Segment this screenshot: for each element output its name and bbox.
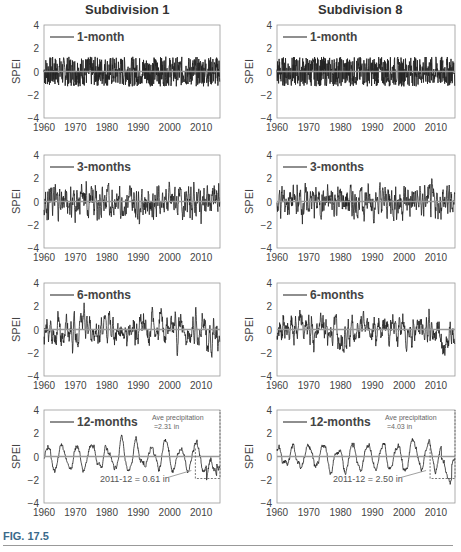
svg-text:1960: 1960	[266, 380, 289, 391]
svg-text:1980: 1980	[329, 252, 352, 263]
svg-text:4: 4	[33, 150, 39, 161]
svg-text:2: 2	[33, 428, 39, 439]
svg-text:SPEI: SPEI	[243, 59, 255, 84]
svg-text:2: 2	[266, 173, 272, 184]
svg-text:−2: −2	[28, 475, 40, 486]
svg-text:−2: −2	[28, 90, 40, 101]
svg-text:2000: 2000	[159, 252, 182, 263]
svg-text:−2: −2	[28, 220, 40, 231]
svg-text:1960: 1960	[33, 507, 56, 518]
svg-text:SPEI: SPEI	[243, 317, 255, 342]
svg-text:1970: 1970	[64, 507, 87, 518]
svg-text:SPEI: SPEI	[243, 189, 255, 214]
svg-text:2000: 2000	[159, 122, 182, 133]
svg-text:1990: 1990	[361, 122, 384, 133]
svg-text:0: 0	[266, 197, 272, 208]
svg-text:Ave precipitation: Ave precipitation	[152, 414, 204, 422]
svg-text:SPEI: SPEI	[10, 189, 22, 214]
svg-text:1990: 1990	[127, 252, 150, 263]
svg-text:1980: 1980	[96, 380, 119, 391]
svg-text:1960: 1960	[33, 252, 56, 263]
svg-text:=2.31 in: =2.31 in	[154, 423, 179, 430]
svg-text:2011-12 = 0.61 in: 2011-12 = 0.61 in	[100, 474, 170, 484]
svg-text:2: 2	[33, 173, 39, 184]
svg-text:2011-12 = 2.50 in: 2011-12 = 2.50 in	[333, 474, 403, 484]
svg-text:0: 0	[266, 325, 272, 336]
svg-text:12-months: 12-months	[310, 415, 371, 429]
svg-text:2: 2	[266, 43, 272, 54]
svg-text:1970: 1970	[64, 380, 87, 391]
svg-text:6-months: 6-months	[310, 288, 364, 302]
svg-text:1-month: 1-month	[77, 30, 124, 44]
svg-text:1980: 1980	[329, 122, 352, 133]
svg-text:0: 0	[266, 67, 272, 78]
svg-text:1980: 1980	[329, 380, 352, 391]
svg-text:1970: 1970	[298, 507, 321, 518]
svg-text:1990: 1990	[361, 380, 384, 391]
svg-text:−2: −2	[261, 90, 273, 101]
spei-charts: 420−2−4196019701980199020002010SPEI1-mon…	[0, 0, 461, 530]
svg-text:0: 0	[33, 325, 39, 336]
svg-text:2000: 2000	[393, 380, 416, 391]
svg-text:1990: 1990	[127, 507, 150, 518]
svg-text:−2: −2	[261, 220, 273, 231]
svg-text:4: 4	[266, 405, 272, 416]
figure-label: FIG. 17.5	[3, 530, 49, 542]
svg-text:1970: 1970	[298, 122, 321, 133]
svg-text:Ave precipitation: Ave precipitation	[385, 414, 437, 422]
svg-text:2000: 2000	[393, 507, 416, 518]
svg-text:1-month: 1-month	[310, 30, 357, 44]
svg-text:1990: 1990	[127, 122, 150, 133]
svg-text:4: 4	[266, 20, 272, 31]
svg-text:1980: 1980	[96, 122, 119, 133]
svg-text:2000: 2000	[159, 380, 182, 391]
svg-text:0: 0	[33, 67, 39, 78]
svg-text:4: 4	[266, 150, 272, 161]
svg-text:1980: 1980	[96, 252, 119, 263]
svg-text:6-months: 6-months	[77, 288, 131, 302]
svg-text:3-months: 3-months	[77, 160, 131, 174]
divider	[3, 545, 453, 546]
svg-text:1970: 1970	[64, 122, 87, 133]
svg-text:0: 0	[33, 197, 39, 208]
svg-text:3-months: 3-months	[310, 160, 364, 174]
svg-text:1990: 1990	[361, 507, 384, 518]
svg-text:1960: 1960	[33, 122, 56, 133]
svg-text:2010: 2010	[425, 507, 448, 518]
svg-text:−2: −2	[261, 348, 273, 359]
svg-text:1990: 1990	[361, 252, 384, 263]
svg-text:4: 4	[33, 405, 39, 416]
svg-text:4: 4	[33, 20, 39, 31]
svg-text:−2: −2	[28, 348, 40, 359]
svg-text:2010: 2010	[425, 122, 448, 133]
svg-text:2010: 2010	[190, 380, 213, 391]
svg-text:12-months: 12-months	[77, 415, 138, 429]
svg-text:SPEI: SPEI	[10, 444, 22, 469]
svg-text:SPEI: SPEI	[10, 59, 22, 84]
svg-text:2000: 2000	[159, 507, 182, 518]
svg-text:1960: 1960	[266, 507, 289, 518]
svg-text:4: 4	[33, 278, 39, 289]
svg-text:1960: 1960	[33, 380, 56, 391]
svg-text:4: 4	[266, 278, 272, 289]
svg-text:2000: 2000	[393, 252, 416, 263]
svg-text:2010: 2010	[425, 252, 448, 263]
svg-text:1970: 1970	[298, 380, 321, 391]
svg-text:2010: 2010	[190, 252, 213, 263]
svg-text:2000: 2000	[393, 122, 416, 133]
svg-text:1960: 1960	[266, 122, 289, 133]
svg-text:SPEI: SPEI	[10, 317, 22, 342]
svg-text:2: 2	[33, 43, 39, 54]
svg-text:1980: 1980	[329, 507, 352, 518]
svg-text:0: 0	[266, 452, 272, 463]
svg-text:2010: 2010	[190, 122, 213, 133]
svg-text:2010: 2010	[190, 507, 213, 518]
svg-text:2: 2	[266, 428, 272, 439]
svg-text:1970: 1970	[64, 252, 87, 263]
svg-text:2: 2	[266, 301, 272, 312]
svg-text:=4.03 in: =4.03 in	[387, 423, 412, 430]
svg-text:2010: 2010	[425, 380, 448, 391]
svg-text:1970: 1970	[298, 252, 321, 263]
svg-text:2: 2	[33, 301, 39, 312]
svg-text:1960: 1960	[266, 252, 289, 263]
